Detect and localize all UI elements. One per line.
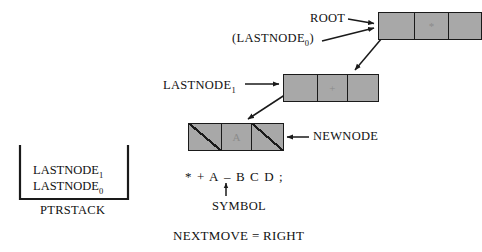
label-newnode-text: NEWNODE (313, 129, 378, 143)
label-symbol-text: SYMBOL (212, 199, 266, 213)
tree-node-root[interactable]: * (378, 12, 482, 40)
lastnode1-data-cell: + (317, 75, 346, 101)
tree-node-lastnode1[interactable]: + (283, 74, 379, 102)
label-root-text: ROOT (310, 11, 345, 25)
label-lastnode1-prefix: LASTNODE (163, 78, 231, 92)
stack-item: LASTNODE1 (33, 163, 103, 180)
newnode-data-cell: A (221, 124, 250, 150)
stack-item-0-prefix: LASTNODE (33, 163, 99, 177)
tree-node-newnode[interactable]: A (188, 123, 284, 151)
stack-item: LASTNODE0 (33, 179, 103, 196)
expr-token-current: – (224, 169, 231, 184)
stack-item-1-prefix: LASTNODE (33, 179, 99, 193)
label-nextmove-text: NEXTMOVE = RIGHT (173, 228, 304, 243)
root-left-pointer-cell (379, 13, 414, 39)
label-root: ROOT (310, 11, 345, 26)
symbol-expression: * + A – B C D ; (185, 169, 284, 185)
expr-token: A (209, 169, 219, 184)
label-lastnode1-subscript: 1 (231, 85, 236, 95)
label-newnode: NEWNODE (313, 129, 378, 144)
label-ptrstack: PTRSTACK (40, 203, 105, 218)
expr-token: B (236, 169, 245, 184)
label-lastnode0-suffix: ) (309, 31, 313, 45)
stack-item-1-subscript: 0 (99, 186, 103, 196)
expr-token: + (197, 169, 205, 184)
stack-item-0-subscript: 1 (99, 170, 103, 180)
root-data-cell: * (414, 13, 447, 39)
label-nextmove: NEXTMOVE = RIGHT (173, 228, 304, 244)
arrow-lastnode0-to-node (322, 28, 374, 41)
label-ptrstack-text: PTRSTACK (40, 203, 105, 217)
label-symbol: SYMBOL (212, 199, 266, 214)
label-lastnode0: (LASTNODE0) (232, 31, 314, 48)
newnode-right-null-pointer-cell (251, 124, 283, 150)
lastnode1-right-pointer-cell (347, 75, 378, 101)
arrow-root-to-node (348, 19, 374, 24)
expr-token: * (185, 169, 192, 184)
expr-token: ; (279, 169, 283, 184)
label-lastnode0-prefix: (LASTNODE (232, 31, 305, 45)
label-lastnode1: LASTNODE1 (163, 78, 236, 95)
root-right-pointer-cell (448, 13, 481, 39)
newnode-left-null-pointer-cell (189, 124, 221, 150)
expr-token: D (264, 169, 274, 184)
expr-token: C (250, 169, 259, 184)
lastnode1-left-pointer-cell (284, 75, 317, 101)
